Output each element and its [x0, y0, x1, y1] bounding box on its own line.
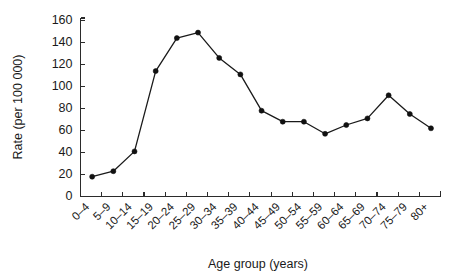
y-axis-tick-label: 80	[59, 101, 73, 115]
data-point	[365, 116, 370, 121]
y-axis-tick-label: 20	[59, 167, 73, 181]
data-point	[238, 72, 243, 77]
y-axis-tick-label: 140	[52, 35, 73, 49]
y-axis-title: Rate (per 100 000)	[11, 55, 25, 160]
data-point	[259, 108, 264, 113]
data-point	[153, 69, 158, 74]
data-point	[301, 119, 306, 124]
y-axis-tick-label: 60	[59, 123, 73, 137]
data-point	[344, 123, 349, 128]
line-chart: 020406080100120140160 0–45–910–1415–1920…	[0, 0, 465, 280]
data-point	[280, 119, 285, 124]
data-point	[132, 149, 137, 154]
y-axis-tick-label: 120	[52, 57, 73, 71]
y-axis-tick-label: 160	[52, 13, 73, 27]
data-point	[111, 169, 116, 174]
y-axis-tick-label: 40	[59, 145, 73, 159]
y-axis-tick-label: 0	[66, 189, 73, 203]
data-point	[217, 55, 222, 60]
data-point	[174, 36, 179, 41]
data-point	[90, 174, 95, 179]
data-point	[428, 126, 433, 131]
data-point	[407, 112, 412, 117]
x-axis-title: Age group (years)	[208, 257, 308, 271]
chart-canvas: 020406080100120140160 0–45–910–1415–1920…	[0, 0, 465, 280]
data-point	[323, 131, 328, 136]
data-point	[196, 30, 201, 35]
y-axis-tick-label: 100	[52, 79, 73, 93]
data-point	[386, 93, 391, 98]
